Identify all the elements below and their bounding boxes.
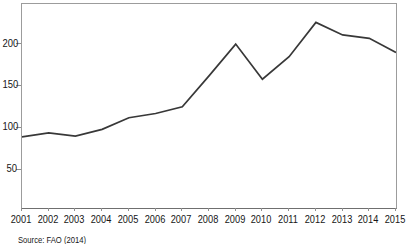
line-chart-svg bbox=[22, 4, 396, 208]
x-tick-mark bbox=[48, 208, 49, 211]
data-line-series bbox=[22, 22, 396, 136]
y-tick-label: 150 bbox=[2, 79, 17, 90]
x-tick-mark bbox=[368, 208, 369, 211]
x-tick-label: 2008 bbox=[196, 214, 220, 225]
x-tick-mark bbox=[155, 208, 156, 211]
x-tick-mark bbox=[21, 208, 22, 211]
x-tick-label: 2007 bbox=[169, 214, 193, 225]
x-tick-mark bbox=[261, 208, 262, 211]
x-tick-mark bbox=[288, 208, 289, 211]
x-tick-mark bbox=[128, 208, 129, 211]
x-tick-label: 2001 bbox=[9, 214, 33, 225]
x-tick-label: 2004 bbox=[89, 214, 113, 225]
y-tick-label: 200 bbox=[2, 38, 17, 49]
x-tick-mark bbox=[395, 208, 396, 211]
x-tick-label: 2003 bbox=[62, 214, 86, 225]
plot-area bbox=[21, 3, 397, 209]
x-tick-label: 2005 bbox=[116, 214, 140, 225]
x-tick-mark bbox=[181, 208, 182, 211]
x-tick-label: 2014 bbox=[356, 214, 380, 225]
x-tick-label: 2010 bbox=[249, 214, 273, 225]
x-tick-label: 2011 bbox=[276, 214, 300, 225]
x-tick-label: 2015 bbox=[383, 214, 406, 225]
y-tick-label: 100 bbox=[2, 121, 17, 132]
x-tick-label: 2002 bbox=[36, 214, 60, 225]
y-tick-label: 50 bbox=[2, 163, 17, 174]
x-tick-mark bbox=[74, 208, 75, 211]
x-tick-label: 2006 bbox=[143, 214, 167, 225]
x-tick-mark bbox=[208, 208, 209, 211]
source-note: Source: FAO (2014) bbox=[18, 235, 86, 244]
x-tick-mark bbox=[101, 208, 102, 211]
x-tick-mark bbox=[315, 208, 316, 211]
x-tick-label: 2013 bbox=[330, 214, 354, 225]
x-tick-label: 2012 bbox=[303, 214, 327, 225]
x-tick-mark bbox=[342, 208, 343, 211]
fao-index-line-chart-figure: 50100150200 2001200220032004200520062007… bbox=[0, 0, 406, 244]
x-tick-mark bbox=[235, 208, 236, 211]
x-tick-label: 2009 bbox=[223, 214, 247, 225]
